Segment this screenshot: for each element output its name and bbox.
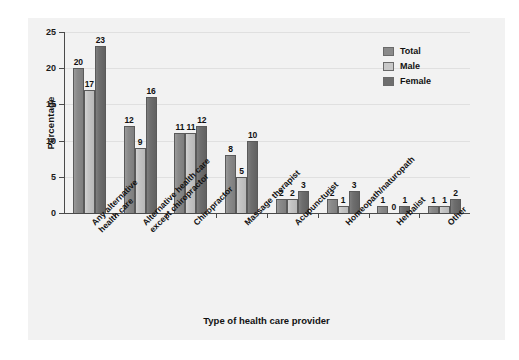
y-tick-label: 25 xyxy=(46,27,56,37)
bar-value-label: 11 xyxy=(186,122,195,132)
bar-value-label: 20 xyxy=(74,57,83,67)
bar-group: 201723 xyxy=(64,32,115,213)
bar-female[interactable]: 2 xyxy=(450,32,461,213)
bar-rect xyxy=(287,199,298,213)
legend-item-female[interactable]: Female xyxy=(383,76,431,86)
legend-label: Male xyxy=(400,61,420,71)
legend-label: Female xyxy=(400,76,431,86)
legend-swatch-female xyxy=(383,77,394,86)
bar-value-label: 1 xyxy=(341,195,346,205)
chart-legend: TotalMaleFemale xyxy=(383,46,431,91)
x-tick xyxy=(318,213,319,218)
bar-value-label: 1 xyxy=(403,195,408,205)
bar-value-label: 3 xyxy=(352,180,357,190)
bar-female[interactable]: 3 xyxy=(298,32,309,213)
bar-value-label: 2 xyxy=(453,188,458,198)
bar-value-label: 23 xyxy=(96,35,105,45)
bar-value-label: 2 xyxy=(290,188,295,198)
x-tick xyxy=(267,213,268,218)
y-tick-label: 15 xyxy=(46,99,56,109)
bar-rect xyxy=(338,206,349,213)
bar-male[interactable]: 1 xyxy=(439,32,450,213)
bar-rect xyxy=(236,177,247,213)
legend-swatch-male xyxy=(383,62,394,71)
bar-rect xyxy=(428,206,439,213)
bar-female[interactable]: 23 xyxy=(95,32,106,213)
bar-value-label: 1 xyxy=(442,195,447,205)
x-tick xyxy=(216,213,217,218)
bar-value-label: 1 xyxy=(431,195,436,205)
chart-figure: Percentage 0510152025 201723129161111128… xyxy=(28,18,505,340)
bar-value-label: 0 xyxy=(392,202,397,212)
bar-rect xyxy=(73,68,84,213)
y-tick-label: 10 xyxy=(46,136,56,146)
x-tick xyxy=(369,213,370,218)
bar-value-label: 17 xyxy=(85,79,94,89)
bar-rect xyxy=(276,199,287,213)
legend-item-total[interactable]: Total xyxy=(383,46,431,56)
bar-female[interactable]: 3 xyxy=(349,32,360,213)
y-tick-label: 5 xyxy=(51,172,56,182)
y-tick-label: 0 xyxy=(51,208,56,218)
bar-value-label: 5 xyxy=(239,166,244,176)
bar-female[interactable]: 16 xyxy=(146,32,157,213)
bar-rect xyxy=(439,206,450,213)
bar-value-label: 3 xyxy=(301,180,306,190)
bar-group: 223 xyxy=(267,32,318,213)
bar-value-label: 16 xyxy=(146,86,155,96)
bar-rect xyxy=(95,46,106,213)
legend-label: Total xyxy=(400,46,421,56)
bar-rect xyxy=(146,97,157,213)
bar-value-label: 12 xyxy=(124,115,133,125)
x-axis-title: Type of health care provider xyxy=(28,315,505,326)
legend-swatch-total xyxy=(383,47,394,56)
bar-value-label: 11 xyxy=(175,122,184,132)
bar-female[interactable]: 10 xyxy=(247,32,258,213)
y-tick-label: 20 xyxy=(46,63,56,73)
bar-value-label: 12 xyxy=(197,115,206,125)
bar-male[interactable]: 17 xyxy=(84,32,95,213)
bar-male[interactable]: 5 xyxy=(236,32,247,213)
bar-value-label: 9 xyxy=(138,137,143,147)
bar-rect xyxy=(84,90,95,213)
x-tick xyxy=(419,213,420,218)
legend-item-male[interactable]: Male xyxy=(383,61,431,71)
bar-rect xyxy=(377,206,388,213)
bar-rect xyxy=(327,199,338,213)
bar-value-label: 8 xyxy=(228,144,233,154)
bar-rect xyxy=(247,141,258,213)
bar-value-label: 10 xyxy=(248,130,257,140)
bar-total[interactable]: 20 xyxy=(73,32,84,213)
